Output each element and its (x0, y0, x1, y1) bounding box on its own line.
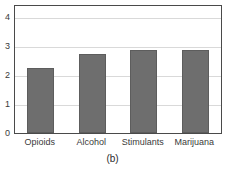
x-axis: OpioidsAlcoholStimulantsMarijuana (14, 137, 222, 151)
y-axis: 01234 (0, 5, 225, 134)
figure: 01234 OpioidsAlcoholStimulantsMarijuana … (0, 0, 225, 170)
x-axis-tick-label: Marijuana (169, 137, 221, 148)
x-axis-tick-label: Stimulants (117, 137, 169, 148)
x-axis-tick-label: Alcohol (66, 137, 118, 148)
y-axis-tick-label: 4 (0, 13, 10, 22)
x-axis-tick-label: Opioids (14, 137, 66, 148)
figure-caption: (b) (0, 153, 225, 165)
y-axis-tick-label: 2 (0, 71, 10, 80)
y-axis-tick-label: 1 (0, 100, 10, 109)
y-axis-tick-label: 3 (0, 42, 10, 51)
y-axis-tick-label: 0 (0, 129, 10, 138)
